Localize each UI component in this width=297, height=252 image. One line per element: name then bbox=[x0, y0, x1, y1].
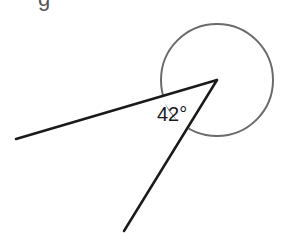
partial-top-text: g bbox=[38, 0, 50, 11]
angle-label: 42° bbox=[157, 103, 187, 125]
diagram-svg: g 42° bbox=[0, 0, 297, 252]
angle-diagram: g 42° bbox=[0, 0, 297, 252]
